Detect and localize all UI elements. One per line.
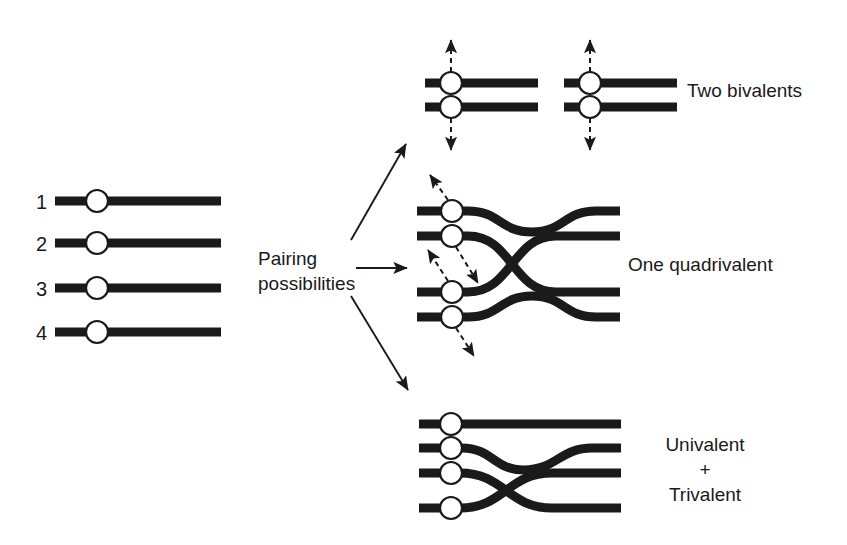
centromere-univalent bbox=[440, 413, 462, 435]
chromosome-number-1: 1 bbox=[36, 191, 47, 213]
centromere-trivalent-middle bbox=[440, 462, 462, 484]
centromere-bivalent-left-lower bbox=[440, 96, 462, 118]
label-univalent: Univalent bbox=[637, 432, 773, 457]
label-univalent-trivalent: Univalent + Trivalent bbox=[637, 432, 773, 507]
centromere-trivalent-upper bbox=[440, 437, 462, 459]
centromere-1 bbox=[86, 190, 108, 212]
input-chromosome-3: 3 bbox=[36, 277, 221, 300]
outcome-one-quadrivalent bbox=[417, 175, 620, 356]
chromosome-number-3: 3 bbox=[36, 278, 47, 300]
pairing-possibilities-figure: 1 2 3 4 bbox=[0, 0, 847, 545]
pairing-label-line-1: Pairing bbox=[258, 247, 355, 272]
centromere-3 bbox=[86, 277, 108, 299]
pull-arrow-quadrivalent-3-upleft bbox=[428, 250, 448, 281]
pull-arrow-quadrivalent-1-upleft bbox=[430, 175, 448, 200]
pull-arrow-quadrivalent-4-downright bbox=[456, 328, 474, 356]
bivalent-left bbox=[425, 40, 538, 150]
centromere-4 bbox=[86, 321, 108, 343]
centromere-trivalent-lower bbox=[440, 497, 462, 519]
chromosome-number-2: 2 bbox=[36, 233, 47, 255]
label-two-bivalents: Two bivalents bbox=[687, 81, 802, 100]
input-chromosome-4: 4 bbox=[36, 321, 221, 344]
input-chromosome-2: 2 bbox=[36, 232, 221, 255]
chromosome-number-4: 4 bbox=[36, 322, 47, 344]
bivalent-right bbox=[564, 40, 677, 150]
centromere-quadrivalent-3 bbox=[441, 281, 463, 303]
centromere-bivalent-right-upper bbox=[579, 72, 601, 94]
outcome-univalent-trivalent bbox=[419, 413, 621, 519]
flow-arrow-to-bivalents bbox=[351, 144, 406, 240]
pairing-label-line-2: possibilities bbox=[258, 272, 355, 297]
label-plus-sign: + bbox=[637, 457, 773, 482]
pull-arrow-quadrivalent-2-downright bbox=[456, 247, 478, 283]
pairing-possibilities-label: Pairing possibilities bbox=[258, 247, 355, 296]
input-chromosome-set: 1 2 3 4 bbox=[36, 190, 221, 344]
centromere-bivalent-right-lower bbox=[579, 96, 601, 118]
label-one-quadrivalent: One quadrivalent bbox=[628, 255, 773, 274]
label-trivalent: Trivalent bbox=[637, 482, 773, 507]
centromere-quadrivalent-1 bbox=[441, 200, 463, 222]
centromere-bivalent-left-upper bbox=[440, 72, 462, 94]
outcome-two-bivalents bbox=[425, 40, 677, 150]
centromere-quadrivalent-2 bbox=[441, 225, 463, 247]
flow-arrow-to-trivalent bbox=[351, 296, 408, 390]
centromere-quadrivalent-4 bbox=[441, 306, 463, 328]
input-chromosome-1: 1 bbox=[36, 190, 221, 213]
pairing-flow-arrows bbox=[351, 144, 408, 390]
centromere-2 bbox=[86, 232, 108, 254]
